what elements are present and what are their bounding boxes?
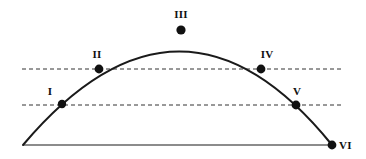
trajectory-point-iii: [176, 25, 185, 34]
trajectory-canvas: [0, 0, 366, 159]
point-label-iii: III: [174, 9, 187, 20]
point-label-vi: VI: [339, 140, 352, 151]
trajectory-point-v: [292, 101, 301, 110]
point-label-iv: IV: [261, 49, 274, 60]
trajectory-curve: [23, 52, 332, 146]
point-label-ii: II: [93, 49, 102, 60]
trajectory-point-vi: [328, 141, 337, 150]
trajectory-point-i: [58, 100, 66, 108]
trajectory-point-ii: [95, 65, 104, 74]
point-label-v: V: [293, 86, 301, 97]
point-label-i: I: [48, 86, 52, 97]
trajectory-point-iv: [257, 65, 266, 74]
trajectory-figure: IIIIIIIVVVI: [0, 0, 366, 159]
